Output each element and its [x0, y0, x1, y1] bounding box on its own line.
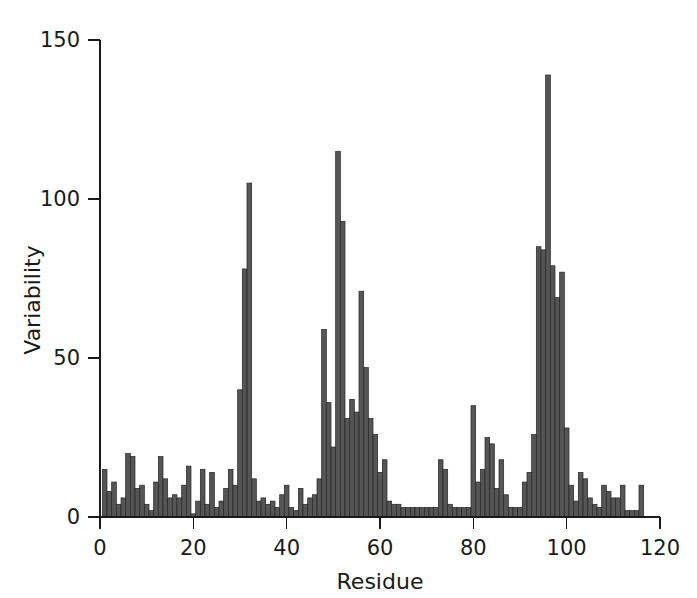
- x-tick-label: 120: [640, 536, 680, 560]
- bar: [494, 488, 499, 517]
- bar: [275, 507, 280, 517]
- bar: [298, 488, 303, 517]
- bar: [527, 472, 532, 517]
- bar: [382, 460, 387, 517]
- bar: [364, 368, 369, 517]
- bar: [261, 498, 266, 517]
- bar: [546, 75, 551, 517]
- bar: [112, 482, 117, 517]
- x-tick-label: 0: [93, 536, 106, 560]
- bar: [471, 406, 476, 517]
- bar: [630, 511, 635, 517]
- x-tick-label: 80: [460, 536, 487, 560]
- bar: [326, 403, 331, 517]
- bar: [182, 485, 187, 517]
- bar: [224, 488, 229, 517]
- bar: [270, 501, 275, 517]
- bar: [532, 434, 537, 517]
- bar: [550, 266, 555, 517]
- bar: [149, 511, 154, 517]
- y-tick-label: 50: [53, 346, 80, 370]
- bar: [219, 501, 224, 517]
- bar: [186, 466, 191, 517]
- bar: [107, 492, 112, 517]
- y-tick-label: 100: [40, 187, 80, 211]
- variability-bar-chart: 050100150 020406080100120 Variability Re…: [0, 0, 697, 598]
- bar: [158, 457, 163, 517]
- bar: [396, 504, 401, 517]
- bar: [634, 511, 639, 517]
- bar: [340, 221, 345, 517]
- bar: [135, 488, 140, 517]
- bar: [177, 498, 182, 517]
- bar: [228, 469, 233, 517]
- bar: [569, 485, 574, 517]
- bar: [317, 479, 322, 517]
- bar: [336, 151, 341, 517]
- bar: [513, 507, 518, 517]
- bar: [154, 482, 159, 517]
- bar: [602, 485, 607, 517]
- bar: [322, 329, 327, 517]
- bar: [350, 399, 355, 517]
- bar: [457, 507, 462, 517]
- x-tick-label: 20: [180, 536, 207, 560]
- bar: [592, 504, 597, 517]
- bar: [522, 482, 527, 517]
- bar: [588, 498, 593, 517]
- bar: [504, 495, 509, 517]
- bar: [373, 434, 378, 517]
- bar: [144, 504, 149, 517]
- x-tick-label: 100: [547, 536, 587, 560]
- bar: [359, 291, 364, 517]
- x-tick-label: 40: [273, 536, 300, 560]
- bar: [466, 507, 471, 517]
- bar: [233, 485, 238, 517]
- bar: [172, 495, 177, 517]
- bar: [625, 511, 630, 517]
- bar: [415, 507, 420, 517]
- chart-canvas: 050100150 020406080100120 Variability Re…: [0, 0, 697, 598]
- bar: [126, 453, 131, 517]
- bar: [452, 507, 457, 517]
- bar: [420, 507, 425, 517]
- bar: [480, 469, 485, 517]
- bar: [205, 504, 210, 517]
- bar: [163, 479, 168, 517]
- bar: [578, 472, 583, 517]
- bar: [639, 485, 644, 517]
- bar: [140, 485, 145, 517]
- bar: [210, 472, 215, 517]
- bar: [378, 472, 383, 517]
- bar: [424, 507, 429, 517]
- bar: [331, 447, 336, 517]
- bar: [611, 498, 616, 517]
- bar: [214, 507, 219, 517]
- bar: [168, 498, 173, 517]
- bar: [434, 507, 439, 517]
- y-axis-title: Variability: [20, 245, 45, 354]
- bar: [247, 183, 252, 517]
- bar: [499, 460, 504, 517]
- bar: [541, 250, 546, 517]
- bar: [560, 272, 565, 517]
- bar: [406, 507, 411, 517]
- bar: [410, 507, 415, 517]
- bar: [387, 501, 392, 517]
- bar: [490, 444, 495, 517]
- bar: [597, 507, 602, 517]
- bar: [116, 504, 121, 517]
- bar: [564, 428, 569, 517]
- bar: [354, 412, 359, 517]
- bar: [518, 507, 523, 517]
- bar: [130, 457, 135, 517]
- bar: [266, 504, 271, 517]
- bar: [200, 469, 205, 517]
- bar: [448, 504, 453, 517]
- bar: [555, 298, 560, 517]
- bar: [312, 495, 317, 517]
- bar: [238, 390, 243, 517]
- bar: [536, 247, 541, 517]
- bar: [345, 418, 350, 517]
- bar: [438, 460, 443, 517]
